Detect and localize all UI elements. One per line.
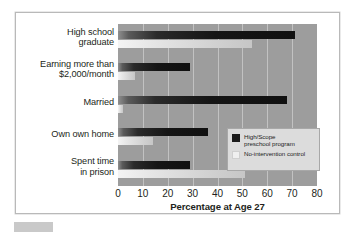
category-label: High schoolgraduate [18,27,114,48]
bar [118,128,208,136]
bar [118,63,190,71]
bar [118,170,245,178]
legend-swatch-icon [232,151,240,159]
category-label-line: $2,000/month [18,69,114,79]
x-axis-tick-labels: 01020304050607080 [118,188,317,201]
legend-label-line: High/Scope [244,133,295,140]
category-label: Spent timein prison [18,156,114,177]
x-tick-0: 0 [115,188,121,199]
bar [118,96,287,104]
x-tick-60: 60 [262,188,273,199]
category-label: Married [18,97,114,107]
category-label: Earning more than$2,000/month [18,59,114,80]
legend-label: No-intervention control [244,150,305,157]
legend-label-line: preschool program [244,140,295,147]
category-label-line: Own own home [18,129,114,139]
bar [118,72,135,80]
category-label-line: in prison [18,167,114,177]
gridline-30 [193,24,194,186]
x-tick-50: 50 [237,188,248,199]
x-tick-30: 30 [187,188,198,199]
category-label-line: graduate [18,37,114,47]
bar [118,40,252,48]
category-label-line: High school [18,27,114,37]
bar [118,137,153,145]
x-axis-title: Percentage at Age 27 [118,201,317,212]
legend-label-line: No-intervention control [244,150,305,157]
x-tick-70: 70 [287,188,298,199]
chart-legend: High/Scopepreschool programNo-interventi… [227,128,320,171]
category-label-line: Earning more than [18,59,114,69]
category-label-line: Spent time [18,156,114,166]
legend-item[interactable]: No-intervention control [232,150,316,159]
bar [118,161,190,169]
category-label-line: Married [18,97,114,107]
page-artifact-block [14,222,53,232]
category-label: Own own home [18,129,114,139]
legend-swatch-icon [232,134,240,142]
x-tick-80: 80 [311,188,322,199]
x-tick-20: 20 [162,188,173,199]
x-tick-40: 40 [212,188,223,199]
category-axis-labels: High schoolgraduateEarning more than$2,0… [18,24,114,186]
chart-figure: High schoolgraduateEarning more than$2,0… [0,0,356,239]
x-tick-10: 10 [137,188,148,199]
bar [118,105,123,113]
bar [118,31,295,39]
legend-label: High/Scopepreschool program [244,133,295,147]
gridline-40 [218,24,219,186]
legend-item[interactable]: High/Scopepreschool program [232,133,316,147]
